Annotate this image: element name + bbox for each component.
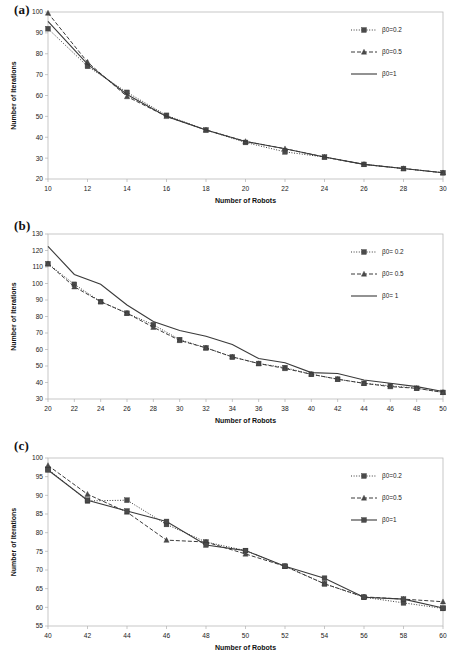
legend-label: β0= 0.5 <box>382 270 404 278</box>
x-tick-label: 42 <box>84 632 92 639</box>
legend-marker <box>362 250 367 255</box>
y-tick-label: 85 <box>36 510 44 517</box>
legend-label: β0=0.5 <box>382 48 402 56</box>
y-tick-label: 70 <box>36 329 44 336</box>
data-point-marker <box>85 498 90 503</box>
y-axis-title: Number of Iterations <box>10 61 17 130</box>
panel-label: (a) <box>14 2 30 18</box>
x-tick-label: 52 <box>281 632 289 639</box>
x-tick-label: 50 <box>242 632 250 639</box>
x-tick-label: 44 <box>360 405 368 412</box>
data-point-marker <box>125 498 130 503</box>
y-tick-label: 100 <box>32 454 43 461</box>
data-point-marker <box>322 576 327 581</box>
y-tick-label: 90 <box>36 492 44 499</box>
y-tick-label: 100 <box>32 8 43 15</box>
x-tick-label: 60 <box>439 632 447 639</box>
x-tick-label: 20 <box>242 185 250 192</box>
x-tick-label: 30 <box>439 185 447 192</box>
x-tick-label: 58 <box>400 632 408 639</box>
data-point-marker <box>401 597 406 602</box>
y-tick-label: 80 <box>36 313 44 320</box>
y-axis-title: Number of Iterations <box>10 282 17 351</box>
legend-label: β0= 0.2 <box>382 248 404 256</box>
x-tick-label: 36 <box>255 405 263 412</box>
data-point-marker <box>441 606 446 611</box>
x-axis-title: Number of Robots <box>215 644 276 651</box>
y-tick-label: 90 <box>36 29 44 36</box>
y-tick-label: 80 <box>36 50 44 57</box>
y-tick-label: 60 <box>36 92 44 99</box>
y-tick-label: 50 <box>36 113 44 120</box>
x-tick-label: 32 <box>202 405 210 412</box>
data-point-marker <box>46 26 51 31</box>
x-tick-label: 22 <box>71 405 79 412</box>
y-tick-label: 80 <box>36 529 44 536</box>
data-point-marker <box>125 509 130 514</box>
legend-label: β0=1 <box>382 516 397 524</box>
x-tick-label: 48 <box>202 632 210 639</box>
data-point-marker <box>243 548 248 553</box>
x-tick-label: 34 <box>229 405 237 412</box>
y-tick-label: 55 <box>36 622 44 629</box>
x-tick-label: 46 <box>163 632 171 639</box>
panel-label: (b) <box>14 218 31 234</box>
y-tick-label: 70 <box>36 566 44 573</box>
x-tick-label: 24 <box>97 405 105 412</box>
y-tick-label: 20 <box>36 175 44 182</box>
x-tick-label: 56 <box>360 632 368 639</box>
x-tick-label: 20 <box>44 405 52 412</box>
data-point-marker <box>362 595 367 600</box>
x-tick-label: 18 <box>202 185 210 192</box>
y-tick-label: 50 <box>36 362 44 369</box>
y-tick-label: 40 <box>36 379 44 386</box>
data-point-marker <box>164 519 169 524</box>
chart-svg: 3040506070809010011012013020222426283032… <box>0 216 459 436</box>
x-tick-label: 46 <box>387 405 395 412</box>
y-tick-label: 100 <box>32 280 43 287</box>
y-tick-label: 60 <box>36 346 44 353</box>
y-tick-label: 65 <box>36 585 44 592</box>
y-tick-label: 130 <box>32 230 43 237</box>
x-tick-label: 16 <box>163 185 171 192</box>
y-tick-label: 110 <box>32 263 43 270</box>
data-point-marker <box>46 468 51 473</box>
x-tick-label: 24 <box>321 185 329 192</box>
x-tick-label: 38 <box>281 405 289 412</box>
legend-label: β0=0.5 <box>382 494 402 502</box>
y-tick-label: 75 <box>36 548 44 555</box>
y-axis-title: Number of Iterations <box>10 508 17 577</box>
y-tick-label: 90 <box>36 296 44 303</box>
x-tick-label: 40 <box>308 405 316 412</box>
x-tick-label: 14 <box>123 185 131 192</box>
y-tick-label: 30 <box>36 155 44 162</box>
x-tick-label: 48 <box>413 405 421 412</box>
y-tick-label: 60 <box>36 604 44 611</box>
legend-label: β0=0.2 <box>382 472 402 480</box>
legend-label: β0=1 <box>382 70 397 78</box>
figure-root: (a)2030405060708090100101214161820222426… <box>0 0 459 663</box>
x-tick-label: 22 <box>281 185 289 192</box>
x-tick-label: 26 <box>123 405 131 412</box>
x-tick-label: 44 <box>123 632 131 639</box>
x-tick-label: 28 <box>150 405 158 412</box>
data-point-marker <box>204 543 209 548</box>
x-tick-label: 28 <box>400 185 408 192</box>
y-tick-label: 70 <box>36 71 44 78</box>
legend-marker <box>362 518 367 523</box>
x-tick-label: 50 <box>439 405 447 412</box>
legend-marker <box>362 474 367 479</box>
x-axis-title: Number of Robots <box>215 417 276 424</box>
legend-label: β0= 1 <box>382 292 399 300</box>
chart-panel-c: (c)5560657075808590951004042444648505254… <box>0 436 459 663</box>
data-point-marker <box>283 564 288 569</box>
y-tick-label: 40 <box>36 134 44 141</box>
x-tick-label: 42 <box>334 405 342 412</box>
y-tick-label: 120 <box>32 247 43 254</box>
y-tick-label: 95 <box>36 473 44 480</box>
legend-label: β0=0.2 <box>382 26 402 34</box>
chart-panel-b: (b)3040506070809010011012013020222426283… <box>0 216 459 436</box>
y-tick-label: 30 <box>36 395 44 402</box>
legend-marker <box>362 28 367 33</box>
chart-svg: 5560657075808590951004042444648505254565… <box>0 436 459 663</box>
